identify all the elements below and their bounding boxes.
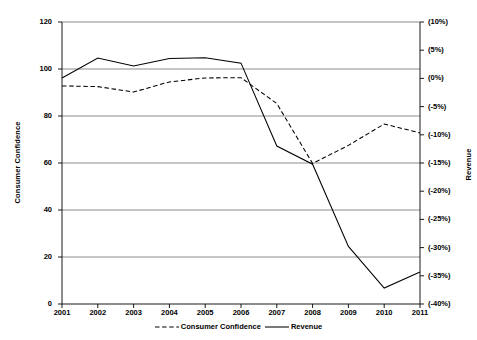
legend-label: Revenue (290, 322, 323, 331)
right-axis-tick-label: (5%) (428, 45, 477, 54)
legend-item[interactable]: Revenue (264, 321, 323, 331)
chart-legend: Consumer Confidence Revenue (0, 321, 477, 331)
series-line-revenue (62, 58, 420, 288)
right-axis-tick-label: (-20%) (428, 186, 477, 195)
left-axis-tick-label: 60 (12, 158, 52, 167)
left-axis-tick-label: 20 (12, 252, 52, 261)
gridlines (62, 22, 420, 257)
left-axis-ticks (58, 22, 62, 304)
x-axis-tick-label: 2011 (400, 308, 440, 317)
right-axis-tick-label: (-35%) (428, 271, 477, 280)
data-series-layer (62, 58, 420, 288)
right-axis-ticks (420, 22, 424, 304)
right-axis-tick-label: (-15%) (428, 158, 477, 167)
x-axis-tick-label: 2006 (221, 308, 261, 317)
x-axis-tick-label: 2008 (293, 308, 333, 317)
left-axis-tick-label: 80 (12, 111, 52, 120)
series-line-consumer-confidence (62, 78, 420, 164)
legend-item[interactable]: Consumer Confidence (154, 321, 262, 331)
x-axis-tick-label: 2002 (78, 308, 118, 317)
legend-swatch-dashed (154, 323, 180, 330)
legend-swatch-solid (264, 323, 290, 330)
chart-container: Consumer Confidence Revenue 020406080100… (0, 0, 477, 340)
x-axis-tick-label: 2007 (257, 308, 297, 317)
x-axis-tick-label: 2005 (185, 308, 225, 317)
x-axis-tick-label: 2010 (364, 308, 404, 317)
chart-plot-area (0, 0, 477, 340)
left-axis-tick-label: 100 (12, 64, 52, 73)
right-axis-tick-label: (-30%) (428, 243, 477, 252)
left-axis-tick-label: 40 (12, 205, 52, 214)
x-axis-tick-label: 2004 (149, 308, 189, 317)
x-axis-tick-label: 2001 (42, 308, 82, 317)
right-axis-tick-label: (-5%) (428, 102, 477, 111)
right-axis-tick-label: (-40%) (428, 299, 477, 308)
left-axis-tick-label: 0 (12, 299, 52, 308)
legend-label: Consumer Confidence (180, 322, 262, 331)
left-axis-tick-label: 120 (12, 17, 52, 26)
right-axis-tick-label: (-10%) (428, 130, 477, 139)
x-axis-tick-label: 2003 (114, 308, 154, 317)
right-axis-tick-label: (-25%) (428, 214, 477, 223)
right-axis-tick-label: (0%) (428, 73, 477, 82)
x-axis-tick-label: 2009 (328, 308, 368, 317)
right-axis-tick-label: (10%) (428, 17, 477, 26)
